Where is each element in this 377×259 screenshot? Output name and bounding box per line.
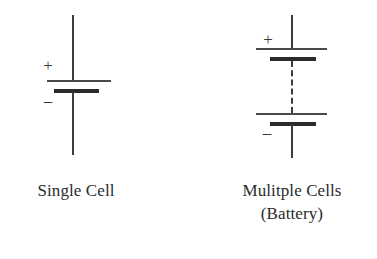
single-cell-negative-plate [54, 89, 99, 93]
multiple-cells-top-lead [291, 15, 293, 49]
multiple-cells-minus-sign: – [260, 124, 274, 141]
multiple-cells-upper-negative-plate [270, 57, 316, 61]
single-cell-plus-sign: + [41, 57, 55, 74]
single-cell-bottom-lead [72, 92, 74, 155]
single-cell-positive-plate [47, 80, 111, 82]
multiple-cells-dashed-continuation [291, 61, 293, 113]
multiple-cells-lower-positive-plate [256, 113, 327, 115]
figure-canvas: + – Single Cell + – Mulitple Cells (Batt… [0, 0, 377, 259]
multiple-cells-caption-line1: Mulitple Cells [214, 180, 370, 202]
multiple-cells-lower-negative-plate [270, 122, 316, 126]
single-cell-caption: Single Cell [6, 180, 146, 202]
multiple-cells-bottom-lead [291, 125, 293, 158]
multiple-cells-plus-sign: + [261, 31, 275, 48]
single-cell-top-lead [72, 15, 74, 81]
single-cell-minus-sign: – [41, 92, 55, 109]
multiple-cells-caption-line2: (Battery) [214, 203, 370, 225]
